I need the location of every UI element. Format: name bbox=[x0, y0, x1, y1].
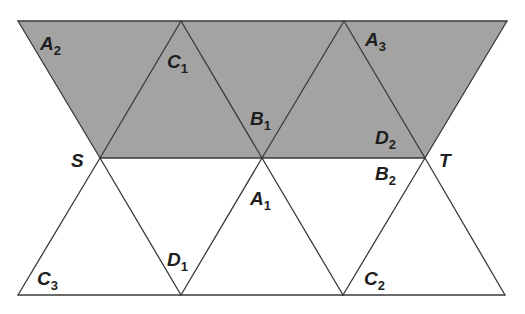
label-a1: A1 bbox=[249, 188, 271, 213]
svg-text:B2: B2 bbox=[375, 163, 396, 188]
svg-text:A1: A1 bbox=[249, 188, 271, 213]
shaded-upper-strip bbox=[18, 21, 507, 158]
svg-text:S: S bbox=[71, 150, 84, 171]
label-c2: C2 bbox=[364, 268, 385, 293]
label-c3: C3 bbox=[37, 268, 58, 293]
svg-text:T: T bbox=[439, 150, 452, 171]
svg-text:D1: D1 bbox=[167, 249, 188, 274]
svg-text:C2: C2 bbox=[364, 268, 385, 293]
edge-mid-to-bottom2 bbox=[262, 158, 343, 295]
svg-text:C3: C3 bbox=[37, 268, 58, 293]
label-b2: B2 bbox=[375, 163, 396, 188]
edge-s-to-bottom-left bbox=[18, 158, 100, 295]
edge-bottom1-to-mid bbox=[181, 158, 262, 295]
edge-s-to-bottom1 bbox=[100, 158, 181, 295]
label-d1: D1 bbox=[167, 249, 188, 274]
edge-t-to-bottom-right bbox=[425, 158, 505, 295]
label-t: T bbox=[439, 150, 452, 171]
triangle-net-diagram: A2 C1 A3 B1 D2 S T B2 A1 D1 C3 C2 bbox=[0, 0, 525, 314]
label-s: S bbox=[71, 150, 84, 171]
